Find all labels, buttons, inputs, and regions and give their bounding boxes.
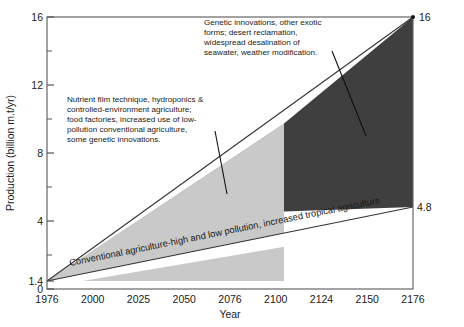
- x-axis-title: Year: [219, 308, 241, 320]
- production-projection-chart: 0 1.4 4 8 12 16 Production (billion m.t/…: [0, 0, 464, 327]
- x-tick-label-2100: 2100: [264, 293, 288, 305]
- x-tick-label-1976: 1976: [35, 293, 59, 305]
- left-annotation-line-2: controlled-environment agriculture;: [67, 105, 192, 114]
- left-annotation-line-4: pollution conventional agriculture,: [67, 125, 187, 134]
- upper-endpoint-label: 16: [419, 11, 431, 23]
- right-annotation-line-4: seawater, weather modification.: [204, 48, 317, 57]
- y-tick-label-8: 8: [37, 147, 43, 159]
- y-tick-label-12: 12: [31, 79, 43, 91]
- x-tick-label-2176: 2176: [401, 293, 425, 305]
- x-tick-label-2124: 2124: [310, 293, 334, 305]
- left-annotation-line-5: some genetic innovations.: [67, 135, 161, 144]
- right-annotation-line-3: widespread desalination of: [203, 38, 301, 47]
- chart-figure: 0 1.4 4 8 12 16 Production (billion m.t/…: [0, 0, 464, 327]
- lower-endpoint-label: 4.8: [417, 201, 432, 213]
- x-tick-label-2050: 2050: [173, 293, 197, 305]
- right-annotation-line-1: Genetic innovations, other exotic: [204, 18, 321, 27]
- y-tick-label-4: 4: [37, 215, 43, 227]
- x-tick-label-2000: 2000: [81, 293, 105, 305]
- y-tick-label-1-4: 1.4: [28, 275, 43, 287]
- left-annotation-line-1: Nutrient film technique, hydroponics &: [67, 95, 204, 104]
- upper-endpoint-marker: [411, 15, 415, 19]
- x-tick-label-2076: 2076: [218, 293, 242, 305]
- left-annotation-line-3: food factories, increased use of low-: [67, 115, 197, 124]
- right-annotation-line-2: forms; desert reclamation,: [204, 28, 298, 37]
- y-axis-title: Production (billion m.t/yr): [4, 95, 16, 211]
- y-tick-label-16: 16: [31, 11, 43, 23]
- x-tick-label-2025: 2025: [127, 293, 151, 305]
- x-tick-label-2150: 2150: [356, 293, 380, 305]
